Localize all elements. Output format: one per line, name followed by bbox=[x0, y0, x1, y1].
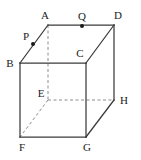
hidden-edges-group bbox=[20, 25, 114, 137]
vertex-label-G: G bbox=[83, 141, 91, 153]
vertex-label-A: A bbox=[41, 9, 49, 21]
point-label-P: P bbox=[23, 30, 29, 42]
vertex-label-F: F bbox=[19, 141, 25, 153]
vertex-label-H: H bbox=[120, 94, 128, 106]
marked-points-group bbox=[31, 24, 84, 46]
cube-diagram-figure: ADBCEHFGPQ bbox=[0, 0, 141, 160]
cube-diagram-canvas: ADBCEHFGPQ bbox=[0, 0, 141, 160]
vertex-label-C: C bbox=[76, 47, 83, 59]
point-Q-dot bbox=[80, 24, 84, 28]
edge-G-H bbox=[86, 100, 114, 137]
solid-edges-group bbox=[20, 25, 114, 137]
point-label-Q: Q bbox=[78, 10, 86, 22]
vertex-label-B: B bbox=[6, 57, 13, 69]
vertex-label-E: E bbox=[38, 87, 45, 99]
vertex-label-D: D bbox=[114, 9, 122, 21]
edge-D-C bbox=[86, 25, 114, 63]
edge-E-F bbox=[20, 100, 48, 137]
point-P-dot bbox=[31, 42, 35, 46]
